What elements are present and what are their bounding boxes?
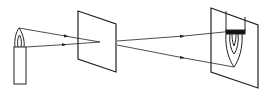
pinhole-diagram: Pinhole camera image formation — [0, 0, 269, 99]
light-rays-outgoing — [117, 31, 234, 67]
projection-screen — [211, 8, 258, 88]
candle-flame-icon — [15, 28, 24, 47]
light-rays-incoming — [19, 28, 100, 47]
candle — [14, 47, 26, 84]
